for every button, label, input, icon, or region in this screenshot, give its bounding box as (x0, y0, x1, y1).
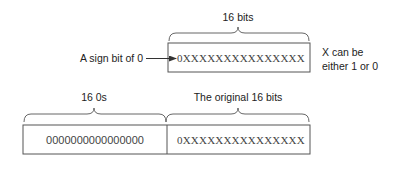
top-width-label: 16 bits (223, 11, 254, 23)
zero-extension-diagram: 16 bits 0XXXXXXXXXXXXXXX A sign bit of 0… (0, 0, 406, 170)
bottom-left-brace (24, 108, 166, 122)
bottom-right-label: The original 16 bits (194, 91, 283, 103)
x-note-line1: X can be (322, 46, 364, 58)
x-note-line2: either 1 or 0 (322, 60, 378, 72)
bottom-left-value: 0000000000000000 (46, 134, 144, 146)
top-brace (169, 27, 309, 41)
bottom-left-label: 16 0s (81, 91, 107, 103)
sign-bit-label: A sign bit of 0 (80, 52, 143, 64)
bottom-right-brace (166, 108, 309, 122)
bottom-right-value: 0XXXXXXXXXXXXXXX (177, 134, 305, 146)
top-16bit-value: 0XXXXXXXXXXXXXXX (177, 52, 305, 64)
